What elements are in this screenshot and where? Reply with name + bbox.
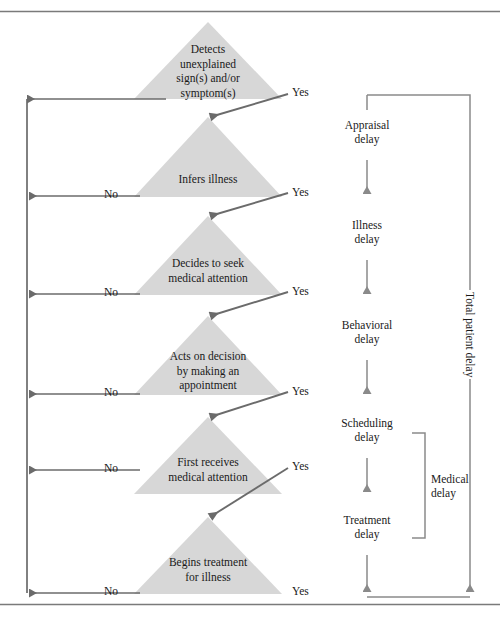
no-label-first-receives: No [104,462,118,475]
no-label-begins-treatment: No [104,585,118,598]
delay-label-scheduling: Scheduling delay [322,416,412,444]
yes-label-begins-treatment: Yes [292,585,309,598]
yes-arrow-acts [210,392,288,417]
no-label-acts: No [104,386,118,399]
stage-triangle-decides [134,216,282,295]
delay-label-appraisal: Appraisal delay [327,118,407,146]
yes-label-decides: Yes [292,285,309,298]
delay-label-medical: Medical delay [431,472,497,500]
yes-label-detects: Yes [292,86,309,99]
stage-triangle-first-receives [134,417,282,494]
diagram-vector-layer [0,0,500,633]
no-label-decides: No [104,286,118,299]
no-label-infers: No [104,188,118,201]
yes-label-infers: Yes [292,186,309,199]
stage-triangle-begins-treatment [134,517,282,594]
stage-triangle-infers [134,117,282,197]
delay-label-illness: Illness delay [327,218,407,246]
stage-triangle-acts [134,316,282,395]
delay-label-total-patient: Total patient delay [464,290,476,379]
yes-label-first-receives: Yes [292,460,309,473]
yes-label-acts: Yes [292,385,309,398]
stage-triangle-detects [134,22,282,99]
patient-delay-flowchart: Detects unexplained sign(s) and/or sympt… [0,0,500,633]
delay-label-behavioral: Behavioral delay [322,318,412,346]
yes-arrow-decides [210,292,288,316]
delay-label-treatment: Treatment delay [322,513,412,541]
